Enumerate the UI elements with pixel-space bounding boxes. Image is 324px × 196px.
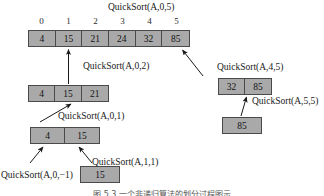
arrow-1-1-to-left-0-1 xyxy=(79,147,92,163)
right45-cell-1: 85 xyxy=(245,79,271,94)
label-quicksort-0-2: QuickSort(A,0,2) xyxy=(83,61,150,72)
root-cell-1: 15 xyxy=(56,31,83,46)
label-quicksort-0-1: QuickSort(A,0,1) xyxy=(58,111,125,122)
label-quicksort-0-5: QuickSort(A,0,5) xyxy=(108,2,175,13)
right-subarray-4-5: 32 85 xyxy=(218,78,272,95)
figure-canvas: QuickSort(A,0,5) 0 1 2 3 4 5 4 15 21 24 … xyxy=(0,0,324,196)
arrow-right-4-5-to-root xyxy=(183,50,204,76)
right-subarray-5-5: 85 xyxy=(222,117,262,134)
arrow-0-minus1-to-left-0-1 xyxy=(30,147,43,163)
label-quicksort-0-minus1: QuickSort(A,0,−1) xyxy=(1,170,73,181)
right11-cell-0: 15 xyxy=(81,167,119,182)
arrow-5-5-to-right-4-5 xyxy=(241,97,247,116)
left01-cell-0: 4 xyxy=(31,128,65,143)
index-label-0: 0 xyxy=(28,16,55,26)
root-cell-0: 4 xyxy=(29,31,56,46)
index-label-1: 1 xyxy=(55,16,82,26)
index-label-4: 4 xyxy=(136,16,163,26)
root-cell-4: 32 xyxy=(136,31,163,46)
right45-cell-0: 32 xyxy=(219,79,245,94)
root-cell-5: 85 xyxy=(162,31,189,46)
left02-cell-0: 4 xyxy=(29,86,55,101)
label-quicksort-4-5: QuickSort(A,4,5) xyxy=(217,62,284,73)
root-cell-3: 24 xyxy=(109,31,136,46)
left02-cell-2: 21 xyxy=(82,86,108,101)
label-quicksort-5-5: QuickSort(A,5,5) xyxy=(252,96,319,107)
left02-cell-1: 15 xyxy=(55,86,81,101)
right-subarray-1-1: 15 xyxy=(80,166,120,183)
figure-caption: 图 5.3 一个非递归算法的划分过程图示 xyxy=(0,188,324,196)
root-array: 4 15 21 24 32 85 xyxy=(28,30,190,47)
index-label-2: 2 xyxy=(82,16,109,26)
right55-cell-0: 85 xyxy=(223,118,261,133)
root-cell-2: 21 xyxy=(82,31,109,46)
left-subarray-0-1: 4 15 xyxy=(30,127,100,144)
index-label-3: 3 xyxy=(109,16,136,26)
left-subarray-0-2: 4 15 21 xyxy=(28,85,109,102)
index-label-5: 5 xyxy=(163,16,190,26)
left01-cell-1: 15 xyxy=(65,128,99,143)
